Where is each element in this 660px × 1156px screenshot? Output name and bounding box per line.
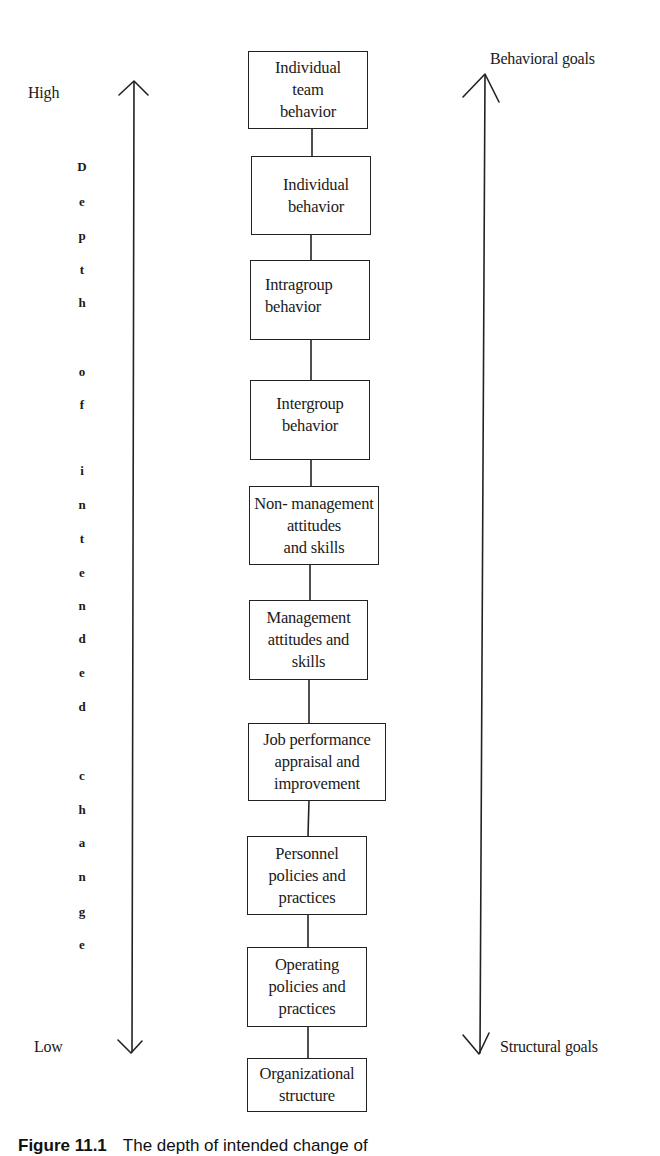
vertical-title-letter: h xyxy=(75,803,89,817)
vertical-title-letter: e xyxy=(75,566,89,580)
box-label: Operating policies and practices xyxy=(269,954,346,1020)
box-personnel-policies-and-practices: Personnel policies and practices xyxy=(247,836,367,915)
connector xyxy=(308,800,309,836)
vertical-title-letter: n xyxy=(75,870,89,884)
vertical-title-letter: g xyxy=(75,905,89,919)
figure-caption-text: The depth of intended change of xyxy=(123,1136,368,1155)
figure-caption: Figure 11.1The depth of intended change … xyxy=(18,1136,368,1156)
vertical-title-letter: n xyxy=(75,498,89,512)
right-arrowhead-up-icon xyxy=(463,74,499,102)
box-operating-policies-and-practices: Operating policies and practices xyxy=(247,947,367,1027)
vertical-title-letter: c xyxy=(75,769,89,783)
box-individual-team-behavior: Individual team behavior xyxy=(248,51,368,129)
box-job-performance-appraisal: Job performance appraisal and improvemen… xyxy=(248,723,386,801)
box-label: Intragroup behavior xyxy=(265,274,333,318)
vertical-title-letter: a xyxy=(75,836,89,850)
vertical-title-letter: t xyxy=(75,263,89,277)
left-axis-top-label: High xyxy=(28,84,59,102)
box-intergroup-behavior: Intergroup behavior xyxy=(250,380,370,460)
right-arrowhead-down-icon xyxy=(463,1033,489,1054)
vertical-title-letter: D xyxy=(75,160,89,174)
right-axis-line xyxy=(480,75,485,1053)
figure-number: Figure 11.1 xyxy=(18,1136,107,1155)
box-organizational-structure: Organizational structure xyxy=(247,1058,367,1112)
vertical-title-letter: i xyxy=(75,464,89,478)
vertical-title-letter: h xyxy=(75,296,89,310)
box-management-attitudes-and-skills: Management attitudes and skills xyxy=(249,600,368,680)
box-label: Non- management attitudes and skills xyxy=(254,493,373,559)
box-label: Personnel policies and practices xyxy=(269,843,346,909)
right-axis-top-label: Behavioral goals xyxy=(490,50,595,68)
left-axis-bottom-label: Low xyxy=(34,1038,63,1056)
vertical-title-letter: e xyxy=(75,666,89,680)
box-label: Management attitudes and skills xyxy=(266,607,350,673)
box-label: Job performance appraisal and improvemen… xyxy=(263,729,370,795)
box-individual-behavior: Individual behavior xyxy=(251,156,371,235)
vertical-title-letter: n xyxy=(75,599,89,613)
vertical-title-letter: e xyxy=(75,938,89,952)
vertical-title-letter: d xyxy=(75,632,89,646)
vertical-title-letter: e xyxy=(75,195,89,209)
box-intragroup-behavior: Intragroup behavior xyxy=(250,260,370,340)
left-arrowhead-down-icon xyxy=(118,1040,142,1053)
vertical-title-letter: p xyxy=(75,229,89,243)
box-label: Intergroup behavior xyxy=(276,393,343,437)
box-label: Individual behavior xyxy=(283,174,349,218)
box-non-management-attitudes-and-skills: Non- management attitudes and skills xyxy=(249,486,379,565)
right-axis-bottom-label: Structural goals xyxy=(500,1038,598,1056)
left-axis-line xyxy=(132,82,134,1052)
box-label: Organizational structure xyxy=(260,1063,355,1107)
vertical-title-letter: f xyxy=(75,398,89,412)
vertical-title-letter: t xyxy=(75,532,89,546)
box-label: Individual team behavior xyxy=(275,57,341,123)
vertical-title-letter: o xyxy=(75,365,89,379)
vertical-title-letter: d xyxy=(75,700,89,714)
